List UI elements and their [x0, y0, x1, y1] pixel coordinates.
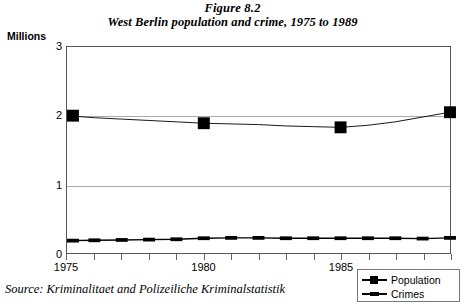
- series-line-population: [67, 112, 450, 127]
- data-point-crimes-1979: [170, 237, 182, 241]
- x-tick-1989: [451, 254, 452, 260]
- x-axis-tick-marks: [66, 254, 451, 260]
- data-point-population-1989: [444, 106, 456, 118]
- data-point-crimes-1989: [444, 236, 456, 240]
- x-tick-1977: [121, 254, 122, 260]
- x-tick-1979: [176, 254, 177, 260]
- x-tick-1984: [314, 254, 315, 260]
- population-series-icon: [361, 274, 388, 285]
- data-point-population-1975: [67, 110, 79, 122]
- data-point-crimes-1977: [116, 238, 128, 242]
- x-tick-1975: [66, 254, 67, 260]
- x-tick-label-1975: 1975: [54, 261, 78, 273]
- x-tick-1985: [341, 254, 342, 260]
- x-tick-label-1985: 1985: [329, 261, 353, 273]
- data-point-crimes-1976: [88, 238, 100, 242]
- legend-label-crimes: Crimes: [391, 288, 424, 300]
- x-tick-label-1980: 1980: [191, 261, 215, 273]
- y-tick-label-2: 2: [6, 109, 62, 121]
- data-point-crimes-1985: [335, 236, 347, 240]
- legend-label-population: Population: [391, 274, 441, 286]
- series-layer: [67, 47, 450, 253]
- data-point-crimes-1988: [417, 237, 429, 241]
- data-point-population-1980: [198, 117, 210, 129]
- legend-item-population[interactable]: Population: [361, 273, 456, 286]
- x-tick-1987: [396, 254, 397, 260]
- source-note: Source: Kriminalitaet and Polizeiliche K…: [5, 282, 285, 297]
- data-point-crimes-1986: [362, 236, 374, 240]
- data-point-crimes-1987: [389, 236, 401, 240]
- y-tick-label-0: 0: [6, 248, 62, 260]
- x-tick-1986: [369, 254, 370, 260]
- x-tick-1980: [204, 254, 205, 260]
- data-point-crimes-1980: [198, 236, 210, 240]
- data-point-crimes-1981: [225, 236, 237, 240]
- x-tick-1981: [231, 254, 232, 260]
- plot-area: [66, 46, 451, 254]
- x-tick-1988: [424, 254, 425, 260]
- data-point-crimes-1982: [253, 236, 265, 240]
- x-tick-1982: [259, 254, 260, 260]
- chart-legend: Population Crimes: [357, 269, 460, 302]
- y-tick-label-3: 3: [6, 40, 62, 52]
- y-axis-tick-labels: 0123: [0, 46, 62, 254]
- x-tick-1976: [94, 254, 95, 260]
- data-point-crimes-1983: [280, 236, 292, 240]
- crimes-series-icon: [361, 288, 388, 299]
- x-tick-1978: [149, 254, 150, 260]
- data-point-crimes-1984: [307, 236, 319, 240]
- data-point-crimes-1975: [67, 239, 79, 243]
- data-point-crimes-1978: [143, 238, 155, 242]
- data-point-population-1985: [335, 121, 347, 133]
- y-tick-label-1: 1: [6, 179, 62, 191]
- figure-title: Figure 8.2: [0, 1, 465, 16]
- x-tick-1983: [286, 254, 287, 260]
- legend-item-crimes[interactable]: Crimes: [361, 287, 456, 300]
- figure-subtitle: West Berlin population and crime, 1975 t…: [0, 15, 465, 30]
